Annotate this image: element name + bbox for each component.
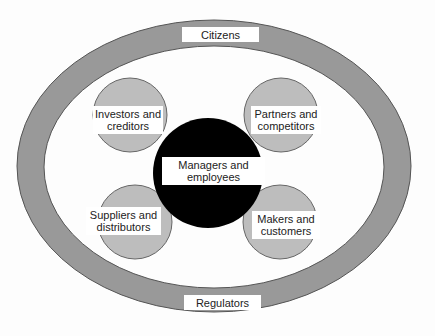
makers-line2: customers [261, 225, 312, 237]
investors-line1: Investors and [95, 108, 161, 120]
label-citizens: Citizens [182, 27, 259, 42]
label-partners: Partners and competitors [251, 106, 321, 134]
label-managers: Managers and employees [162, 157, 265, 185]
suppliers-line2: distributors [97, 221, 151, 233]
partners-line1: Partners and [255, 108, 318, 120]
label-makers: Makers and customers [252, 211, 320, 239]
managers-line1: Managers and [178, 159, 248, 171]
makers-line1: Makers and [257, 213, 314, 225]
label-suppliers: Suppliers and distributors [86, 207, 161, 235]
partners-line2: competitors [258, 120, 315, 132]
managers-line2: employees [187, 171, 240, 183]
label-regulators: Regulators [184, 295, 261, 310]
investors-line2: creditors [107, 120, 149, 132]
suppliers-line1: Suppliers and [90, 209, 157, 221]
label-investors: Investors and creditors [93, 106, 163, 134]
